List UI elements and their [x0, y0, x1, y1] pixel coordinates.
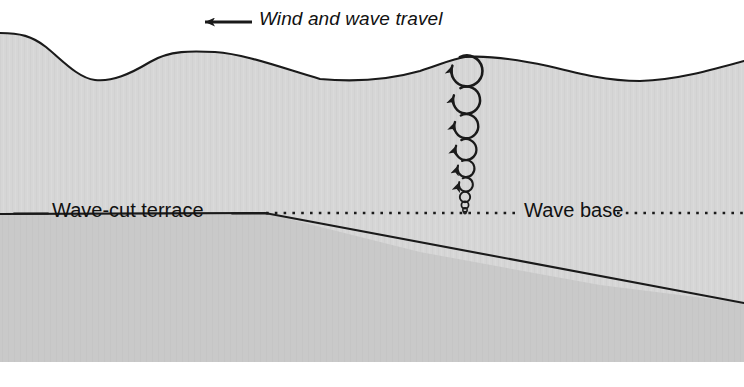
wave-motion-diagram: Wind and wave travel Wave-cut terrace Wa… [0, 0, 744, 387]
wind-and-wave-travel-label: Wind and wave travel [259, 8, 442, 30]
wave-cut-terrace-label: Wave-cut terrace [52, 199, 204, 222]
diagram-canvas [0, 0, 744, 387]
water-surface-line [0, 33, 744, 81]
wave-base-label: Wave base [524, 199, 623, 222]
